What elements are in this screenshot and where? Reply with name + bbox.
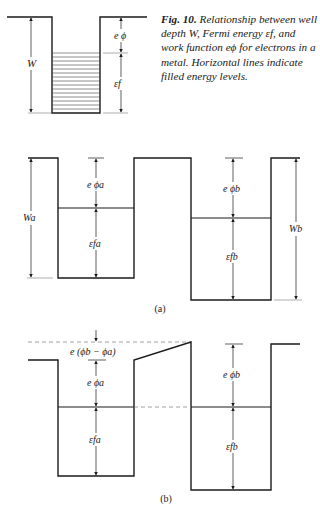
label-Wa: Wa <box>23 212 35 223</box>
label-efa: εfa <box>89 238 101 249</box>
panel-b-metals-in-contact: e (ϕb − ϕa) e ϕa εfa e ϕb εfb (b) <box>28 330 300 505</box>
energy-well-diagrams: W e ϕ εf Wa e ϕa εfa e ϕb ε <box>0 0 320 516</box>
label-contact-potential: e (ϕb − ϕa) <box>70 346 116 358</box>
single-metal-well: W e ϕ εf <box>7 17 147 113</box>
label-ephib-b: e ϕb <box>223 369 240 380</box>
label-Wb: Wb <box>289 223 302 234</box>
label-ephib: e ϕb <box>223 183 240 194</box>
wells-outline-b <box>28 342 300 490</box>
label-efb-b: εfb <box>226 441 238 452</box>
label-W: W <box>27 57 37 69</box>
label-efa-b: εfa <box>89 434 101 445</box>
label-ephi: e ϕ <box>114 30 126 41</box>
wells-outline-a <box>28 158 300 300</box>
panel-b-label: (b) <box>160 493 172 505</box>
label-efb: εfb <box>226 251 238 262</box>
label-ephia-b: e ϕa <box>87 377 104 388</box>
panel-a-separated-metals: Wa e ϕa εfa e ϕb εfb Wb (a) <box>22 158 304 315</box>
filled-energy-levels <box>52 53 100 109</box>
label-ephia: e ϕa <box>87 179 104 190</box>
panel-a-label: (a) <box>154 303 165 315</box>
